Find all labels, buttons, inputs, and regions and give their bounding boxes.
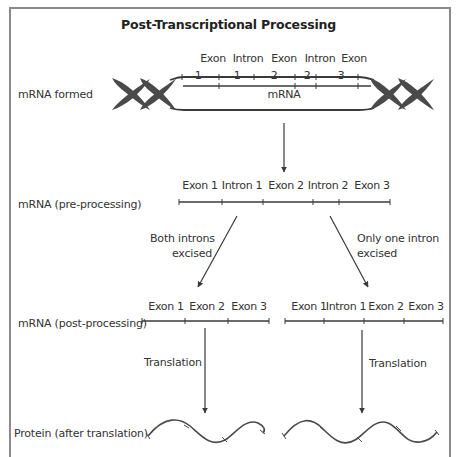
dna-bottom-strand — [170, 108, 374, 110]
arrow-both-introns-excised — [198, 216, 237, 287]
protein-chain-left — [148, 420, 264, 442]
protein-chain-right — [284, 421, 437, 443]
protein-right-ticks — [282, 426, 439, 442]
dna-helix-left-icon — [112, 78, 176, 110]
arrow-one-intron-excised — [330, 216, 368, 287]
dna-top-strand — [170, 77, 374, 80]
dna-helix-right-icon — [370, 78, 434, 110]
